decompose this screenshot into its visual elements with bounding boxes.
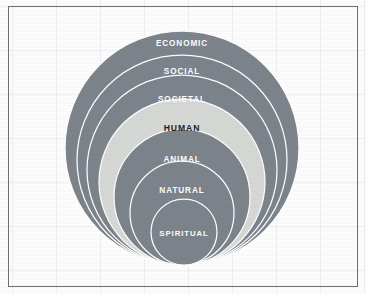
ring-label-natural: NATURAL — [159, 186, 204, 195]
ring-label-animal: ANIMAL — [163, 155, 200, 164]
ring-label-human: HUMAN — [164, 123, 200, 133]
nested-circles-diagram: ECONOMICSOCIALSOCIETALHUMANANIMALNATURAL… — [0, 0, 366, 294]
diagram-stage: ECONOMICSOCIALSOCIETALHUMANANIMALNATURAL… — [0, 0, 366, 294]
ring-label-economic: ECONOMIC — [156, 39, 208, 48]
ring-label-societal: SOCIETAL — [158, 95, 206, 104]
ring-label-spiritual: SPIRITUAL — [159, 229, 208, 238]
ring-label-social: SOCIAL — [164, 67, 200, 76]
figure-container: ECONOMICSOCIALSOCIETALHUMANANIMALNATURAL… — [0, 0, 366, 294]
